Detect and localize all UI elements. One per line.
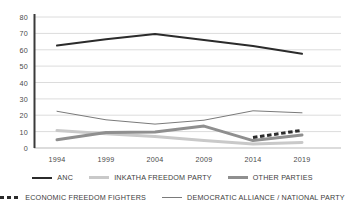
series-line-anc	[57, 34, 302, 54]
line-chart: 80 70 60 50 40 30 20 10 0 1994 1999 2004…	[0, 0, 345, 209]
legend-label-democratic-alliance-national-party: DEMOCRATIC ALLIANCE / NATIONAL PARTY	[187, 193, 345, 202]
x-tick-label-2019: 2019	[287, 155, 317, 164]
line-swatch-solid-dark-icon	[32, 177, 52, 179]
plot-area: 80 70 60 50 40 30 20 10 0 1994 1999 2004…	[0, 0, 345, 168]
gridlines	[34, 17, 341, 132]
x-tick-label-2014: 2014	[238, 155, 268, 164]
legend-item-economic-freedom-fighters[interactable]: ECONOMIC FREEDOM FIGHTERS	[0, 193, 146, 202]
line-swatch-solid-light-icon	[89, 176, 109, 179]
legend-item-inkatha-freedom-party[interactable]: INKATHA FREEDOM PARTY	[89, 173, 212, 182]
legend-item-anc[interactable]: ANC	[32, 173, 73, 182]
y-tick-label-70: 70	[10, 29, 28, 38]
x-tick-label-2009: 2009	[189, 155, 219, 164]
y-tick-label-20: 20	[10, 111, 28, 120]
y-tick-label-50: 50	[10, 62, 28, 71]
x-tick-label-1994: 1994	[42, 155, 72, 164]
line-swatch-dashed-dark-icon	[0, 196, 20, 199]
legend-item-other-parties[interactable]: OTHER PARTIES	[228, 173, 313, 182]
legend-row-1: ANC INKATHA FREEDOM PARTY OTHER PARTIES	[0, 168, 345, 187]
y-tick-label-30: 30	[10, 95, 28, 104]
y-tick-label-10: 10	[10, 128, 28, 137]
legend-row-2: ECONOMIC FREEDOM FIGHTERS DEMOCRATIC ALL…	[0, 187, 345, 207]
y-tick-label-0: 0	[10, 144, 28, 153]
x-tick-label-1999: 1999	[91, 155, 121, 164]
legend-label-inkatha-freedom-party: INKATHA FREEDOM PARTY	[114, 173, 212, 182]
legend-label-economic-freedom-fighters: ECONOMIC FREEDOM FIGHTERS	[25, 193, 146, 202]
legend-label-other-parties: OTHER PARTIES	[253, 173, 313, 182]
plot-svg	[0, 0, 345, 168]
series-line-inkatha-freedom-party	[57, 131, 302, 145]
line-swatch-solid-gray-icon	[228, 176, 248, 179]
chart-legend: ANC INKATHA FREEDOM PARTY OTHER PARTIES …	[0, 168, 345, 209]
legend-label-anc: ANC	[57, 173, 73, 182]
legend-item-democratic-alliance-national-party[interactable]: DEMOCRATIC ALLIANCE / NATIONAL PARTY	[162, 193, 345, 202]
series-line-democratic-alliance-national-party	[57, 111, 302, 124]
y-tick-label-80: 80	[10, 13, 28, 22]
y-tick-label-40: 40	[10, 79, 28, 88]
y-tick-label-60: 60	[10, 46, 28, 55]
line-swatch-thin-gray-icon	[162, 197, 182, 198]
x-tick-label-2004: 2004	[140, 155, 170, 164]
